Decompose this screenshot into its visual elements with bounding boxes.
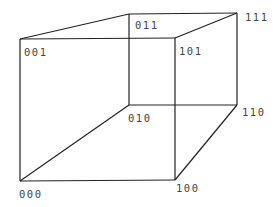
vertex-label-110: 110 (242, 106, 265, 118)
vertex-label-001: 001 (24, 46, 47, 58)
vertex-label-100: 100 (176, 182, 199, 194)
vertex-label-011: 011 (135, 19, 158, 31)
edge-011-111 (129, 13, 237, 14)
vertex-label-010: 010 (128, 112, 151, 124)
vertex-label-111: 111 (245, 11, 268, 23)
vertex-label-101: 101 (179, 45, 202, 57)
cube-diagram: 000 100 010 110 001 101 011 111 (0, 0, 280, 207)
cube-edges (20, 13, 237, 181)
edge-001-011 (20, 14, 129, 39)
edge-000-100 (20, 180, 175, 181)
edge-100-110 (175, 105, 237, 180)
edge-000-010 (20, 105, 129, 181)
edge-101-111 (175, 13, 237, 38)
edge-001-101 (20, 38, 175, 39)
vertex-label-000: 000 (19, 188, 42, 200)
